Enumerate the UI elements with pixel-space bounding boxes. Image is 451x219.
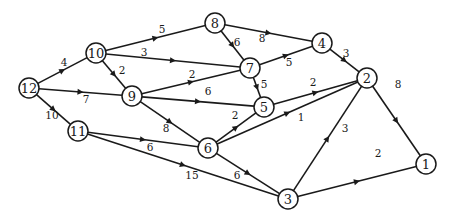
directed-graph: 4710532268615685532216832 12109118745263… [0,0,451,219]
edge-weight-label: 2 [232,109,239,121]
edge-weight-label: 4 [61,56,68,68]
arrowhead-icon [170,57,176,63]
arrowhead-icon [179,161,186,167]
node-10: 10 [86,43,106,63]
edge-weight-label: 5 [261,78,268,90]
node-11: 11 [68,121,88,141]
node-label: 11 [70,124,87,139]
edge-weight-label: 6 [205,85,212,97]
node-label: 7 [246,61,254,76]
edge-weight-label: 2 [375,147,382,159]
edge-weight-label: 3 [342,122,349,134]
arrowhead-icon [187,80,194,86]
edge-weight-label: 10 [45,109,58,121]
node-label: 10 [88,46,105,61]
edge-weight-label: 7 [83,93,90,105]
node-9: 9 [122,86,142,106]
arrowhead-icon [195,98,201,104]
node-6: 6 [198,138,218,158]
node-4: 4 [312,33,332,53]
node-3: 3 [278,189,298,209]
edge-weight-label: 2 [310,76,317,88]
node-label: 4 [318,36,326,51]
edge-weight-label: 3 [141,46,148,58]
node-label: 2 [363,71,371,86]
edge-weight-label: 1 [298,111,305,123]
edge-weight-label: 8 [395,78,402,90]
node-1: 1 [416,154,436,174]
node-label: 6 [204,141,212,156]
edge-weight-label: 2 [119,64,126,76]
node-12: 12 [19,78,39,98]
node-label: 12 [21,81,38,96]
node-label: 5 [260,100,268,115]
node-label: 1 [422,157,430,172]
edge-weight-label: 5 [159,23,166,35]
node-label: 3 [284,192,292,207]
node-label: 9 [128,89,136,104]
edge-weight-label: 2 [189,68,196,80]
node-2: 2 [357,68,377,88]
node-label: 8 [211,16,219,31]
edge-weight-label: 15 [185,169,198,181]
edge-weight-label: 6 [234,169,241,181]
edge-weight-label: 6 [234,36,241,48]
node-7: 7 [240,58,260,78]
node-8: 8 [205,13,225,33]
edge-weight-label: 6 [147,141,154,153]
node-5: 5 [254,97,274,117]
edge-weight-label: 3 [343,47,350,59]
edge-weight-label: 5 [286,56,293,68]
edge-weight-label: 8 [259,32,266,44]
arrowhead-icon [265,29,271,35]
edge-weight-label: 8 [163,122,170,134]
